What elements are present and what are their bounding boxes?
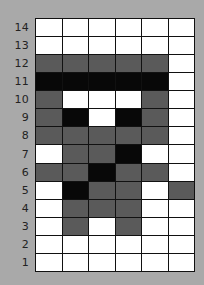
grid-cell [142, 73, 168, 90]
row-label: 4 [0, 199, 30, 217]
grid-cell [63, 236, 89, 253]
grid-cell [36, 218, 62, 235]
grid-cell [169, 254, 195, 271]
grid-cell [142, 109, 168, 126]
grid-cell [89, 127, 115, 144]
grid-cell [169, 218, 195, 235]
grid-cell [142, 37, 168, 54]
grid-cell [89, 19, 115, 36]
grid-cell [89, 37, 115, 54]
grid-cell [116, 73, 142, 90]
row-label: 14 [0, 18, 30, 36]
grid-cell [116, 254, 142, 271]
grid-cell [36, 73, 62, 90]
row-label: 10 [0, 91, 30, 109]
row-label: 5 [0, 181, 30, 199]
row-labels: 14 13 12 11 10 9 8 7 6 5 4 3 2 1 [0, 18, 30, 272]
grid-cell [116, 55, 142, 72]
row-label: 11 [0, 72, 30, 90]
grid-cell [63, 127, 89, 144]
grid-cell [116, 109, 142, 126]
grid-cell [36, 91, 62, 108]
grid-cell [169, 91, 195, 108]
grid-cell [169, 127, 195, 144]
grid-cell [142, 164, 168, 181]
grid-cell [142, 19, 168, 36]
grid-cell [36, 37, 62, 54]
grid-cell [116, 218, 142, 235]
grid-cell [89, 182, 115, 199]
grid-cell [63, 91, 89, 108]
grid-cell [63, 182, 89, 199]
grid-cell [169, 73, 195, 90]
row-label: 7 [0, 145, 30, 163]
grid-cell [36, 164, 62, 181]
grid-cell [89, 236, 115, 253]
grid-cell [63, 109, 89, 126]
grid-cell [63, 19, 89, 36]
grid-cell [169, 200, 195, 217]
grid-cell [89, 254, 115, 271]
grid-cell [89, 109, 115, 126]
grid-cell [142, 55, 168, 72]
grid-cell [36, 19, 62, 36]
grid-cell [63, 164, 89, 181]
grid-cell [142, 91, 168, 108]
grid-cell [142, 145, 168, 162]
grid-cell [36, 145, 62, 162]
grid-cell [63, 55, 89, 72]
grid-cell [89, 218, 115, 235]
grid-cell [63, 254, 89, 271]
grid-cell [142, 127, 168, 144]
grid-cell [63, 145, 89, 162]
grid-cell [169, 109, 195, 126]
grid-cell [89, 55, 115, 72]
grid-cell [116, 37, 142, 54]
grid-cell [142, 254, 168, 271]
grid-cell [142, 218, 168, 235]
grid-cell [116, 236, 142, 253]
row-label: 8 [0, 127, 30, 145]
grid-cell [36, 254, 62, 271]
grid-cell [36, 182, 62, 199]
pixel-grid [35, 18, 195, 272]
row-label: 3 [0, 218, 30, 236]
grid-cell [89, 73, 115, 90]
grid-cell [116, 164, 142, 181]
grid-cell [116, 200, 142, 217]
grid-cell [89, 145, 115, 162]
grid-cell [89, 164, 115, 181]
grid-cell [36, 200, 62, 217]
grid-cell [63, 218, 89, 235]
grid-cell [116, 127, 142, 144]
grid-cell [63, 73, 89, 90]
row-label: 12 [0, 54, 30, 72]
grid-cell [142, 200, 168, 217]
grid-cell [169, 55, 195, 72]
grid-cell [116, 145, 142, 162]
row-label: 9 [0, 109, 30, 127]
grid-cell [63, 200, 89, 217]
grid-cell [169, 19, 195, 36]
grid-cell [116, 19, 142, 36]
grid-cell [169, 182, 195, 199]
grid-cell [169, 37, 195, 54]
grid-cell [169, 236, 195, 253]
grid-cell [36, 236, 62, 253]
row-label: 1 [0, 254, 30, 272]
grid-cell [116, 182, 142, 199]
grid-cell [169, 145, 195, 162]
grid-cell [142, 236, 168, 253]
grid-cell [142, 182, 168, 199]
grid-cell [36, 55, 62, 72]
row-label: 6 [0, 163, 30, 181]
row-label: 2 [0, 236, 30, 254]
grid-cell [63, 37, 89, 54]
row-label: 13 [0, 36, 30, 54]
grid-cell [116, 91, 142, 108]
grid-cell [36, 109, 62, 126]
grid-cell [169, 164, 195, 181]
grid-cell [89, 200, 115, 217]
grid-cell [89, 91, 115, 108]
grid-cell [36, 127, 62, 144]
